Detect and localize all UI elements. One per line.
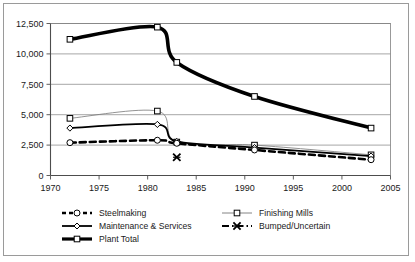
legend-label-maintenance-services: Maintenance & Services: [99, 221, 192, 231]
legend-label-bumped-uncertain: Bumped/Uncertain: [259, 221, 330, 231]
x-axis-label: 1975: [89, 183, 109, 193]
marker-steelmaking: [368, 157, 374, 163]
legend-item-maintenance-services: Maintenance & Services: [62, 221, 192, 231]
legend-item-bumped-uncertain: Bumped/Uncertain: [222, 221, 330, 231]
legend-item-plant-total: Plant Total: [62, 234, 139, 244]
y-axis-label: 5,000: [21, 110, 44, 120]
y-axis-label: 0: [38, 171, 43, 181]
legend-label-steelmaking: Steelmaking: [99, 208, 147, 218]
marker-maintenance-services: [154, 121, 160, 127]
y-axis-label: 12,500: [16, 19, 44, 29]
marker-finishing-mills: [155, 108, 161, 114]
legend-label-finishing-mills: Finishing Mills: [259, 208, 313, 218]
x-axis-label: 1995: [283, 183, 303, 193]
x-axis-label: 1985: [186, 183, 206, 193]
legend-item-finishing-mills: Finishing Mills: [222, 208, 313, 218]
marker-steelmaking: [154, 137, 160, 143]
marker-steelmaking: [174, 140, 180, 146]
marker-plant-total: [368, 125, 374, 131]
legend-label-plant-total: Plant Total: [99, 234, 139, 244]
marker-plant-total: [252, 94, 258, 100]
y-axis-label: 2,500: [21, 140, 44, 150]
plot-border: [51, 24, 391, 176]
marker-steelmaking: [67, 140, 73, 146]
marker-plant-total: [174, 60, 180, 66]
y-axis-label: 7,500: [21, 80, 44, 90]
x-axis-label: 1980: [138, 183, 158, 193]
chart-area: 02,5005,0007,50010,00012,500197019751980…: [0, 0, 415, 262]
marker-steelmaking: [252, 147, 258, 153]
legend-marker-steelmaking: [74, 210, 80, 216]
legend-marker-finishing-mills: [234, 210, 240, 216]
x-axis-label: 1970: [40, 183, 60, 193]
marker-plant-total: [67, 37, 73, 43]
x-axis-label: 2000: [332, 183, 352, 193]
marker-plant-total: [155, 24, 161, 30]
series-bumped-uncertain: [173, 154, 180, 161]
series-line-steelmaking: [70, 140, 371, 159]
x-axis-label: 1990: [235, 183, 255, 193]
legend-item-steelmaking: Steelmaking: [62, 208, 147, 218]
chart-legend: SteelmakingMaintenance & ServicesPlant T…: [62, 208, 330, 244]
marker-maintenance-services: [67, 125, 73, 131]
y-axis-label: 10,000: [16, 49, 44, 59]
series-steelmaking: [67, 137, 374, 162]
marker-finishing-mills: [67, 116, 73, 122]
x-axis-label: 2005: [380, 183, 400, 193]
legend-marker-maintenance-services: [74, 223, 80, 229]
chart-svg: 02,5005,0007,50010,00012,500197019751980…: [0, 0, 415, 262]
legend-marker-plant-total: [74, 236, 80, 242]
